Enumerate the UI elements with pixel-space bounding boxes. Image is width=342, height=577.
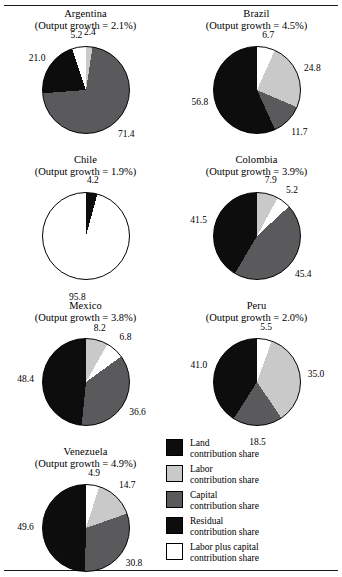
legend-swatch-labor [166, 465, 183, 482]
slice-value-label: 48.4 [17, 374, 34, 384]
slice-value-label: 4.9 [88, 468, 100, 478]
legend-label: Capitalcontribution share [190, 490, 259, 511]
pie-panel-colombia: Colombia(Output growth = 3.9%)7.95.245.4… [171, 154, 342, 300]
pie-area: 5.535.018.541.0 [171, 324, 342, 442]
legend-label: Residualcontribution share [190, 516, 259, 537]
panel-subtitle: (Output growth = 1.9%) [0, 166, 171, 178]
pie-panel-mexico: Mexico(Output growth = 3.8%)8.26.836.648… [0, 300, 171, 446]
slice-value-label: 5.5 [260, 322, 272, 332]
legend-item-residual: Residualcontribution share [166, 516, 336, 537]
legend-label-line1: Labor plus capital [190, 542, 259, 553]
slice-value-label: 24.8 [304, 63, 321, 73]
slice-value-label: 6.7 [262, 30, 274, 40]
legend-swatch-residual [166, 517, 183, 534]
panel-title: Brazil [171, 8, 342, 20]
slice-value-label: 30.8 [126, 558, 143, 568]
panel-title: Peru [171, 300, 342, 312]
legend-swatch-labor_plus_capital [166, 543, 183, 560]
slice-value-label: 2.4 [84, 27, 96, 37]
pie-area: 2.471.421.05.2 [0, 32, 171, 150]
legend-label-line1: Labor [190, 464, 259, 475]
pie-panel-argentina: Argentina(Output growth = 2.1%)2.471.421… [0, 8, 171, 154]
legend-item-labor_plus_capital: Labor plus capitalcontribution share [166, 542, 336, 563]
pie-panel-peru: Peru(Output growth = 2.0%)5.535.018.541.… [171, 300, 342, 446]
pie-chart [42, 338, 130, 426]
pie-chart [213, 192, 301, 280]
legend: Landcontribution shareLaborcontribution … [166, 438, 336, 566]
legend-label-line2: contribution share [190, 449, 259, 460]
slice-value-label: 8.2 [94, 323, 106, 333]
pie-area: 4.295.8 [0, 178, 171, 296]
pie-area: 4.914.730.849.6 [0, 470, 171, 577]
slice-value-label: 45.4 [295, 269, 312, 279]
pie-chart [42, 192, 130, 280]
panel-title: Colombia [171, 154, 342, 166]
legend-swatch-land [166, 439, 183, 456]
slice-value-label: 56.8 [192, 97, 209, 107]
top-rule [4, 5, 338, 6]
slice-value-label: 71.4 [118, 129, 135, 139]
legend-item-labor: Laborcontribution share [166, 464, 336, 485]
slice-value-label: 41.0 [191, 360, 208, 370]
slice-value-label: 21.0 [29, 53, 46, 63]
pie-area: 7.95.245.441.5 [171, 178, 342, 296]
legend-item-capital: Capitalcontribution share [166, 490, 336, 511]
legend-label-line2: contribution share [190, 475, 259, 486]
legend-label-line1: Capital [190, 490, 259, 501]
slice-value-label: 4.2 [87, 175, 99, 185]
legend-label-line2: contribution share [190, 527, 259, 538]
panel-subtitle: (Output growth = 3.9%) [171, 166, 342, 178]
panel-title: Chile [0, 154, 171, 166]
pie-area: 6.724.811.756.8 [171, 32, 342, 150]
pie-chart [213, 46, 301, 134]
panel-subtitle: (Output growth = 4.5%) [171, 20, 342, 32]
slice-value-label: 14.7 [119, 480, 136, 490]
slice-value-label: 5.2 [286, 185, 298, 195]
legend-label: Labor plus capitalcontribution share [190, 542, 259, 563]
slice-value-label: 7.9 [265, 175, 277, 185]
legend-label: Laborcontribution share [190, 464, 259, 485]
pie-panel-brazil: Brazil(Output growth = 4.5%)6.724.811.75… [171, 8, 342, 154]
panel-title: Argentina [0, 8, 171, 20]
legend-label-line1: Residual [190, 516, 259, 527]
slice-value-label: 36.6 [129, 407, 146, 417]
legend-item-land: Landcontribution share [166, 438, 336, 459]
slice-value-label: 11.7 [291, 127, 307, 137]
slice-value-label: 49.6 [17, 522, 34, 532]
slice-value-label: 6.8 [120, 332, 132, 342]
legend-label-line1: Land [190, 438, 259, 449]
slice-value-label: 35.0 [308, 369, 325, 379]
slice-value-label: 5.2 [70, 30, 82, 40]
pie-chart [42, 484, 130, 572]
pie-panel-venezuela: Venezuela(Output growth = 4.9%)4.914.730… [0, 446, 171, 577]
pie-chart [42, 46, 130, 134]
legend-label-line2: contribution share [190, 553, 259, 564]
legend-swatch-capital [166, 491, 183, 508]
panel-title: Venezuela [0, 446, 171, 458]
figure-contribution-shares: Argentina(Output growth = 2.1%)2.471.421… [0, 0, 342, 577]
panel-subtitle: (Output growth = 3.8%) [0, 312, 171, 324]
pie-panel-chile: Chile(Output growth = 1.9%)4.295.8 [0, 154, 171, 300]
panel-subtitle: (Output growth = 2.0%) [171, 312, 342, 324]
pie-area: 8.26.836.648.4 [0, 324, 171, 442]
panel-subtitle: (Output growth = 4.9%) [0, 458, 171, 470]
panel-title: Mexico [0, 300, 171, 312]
legend-label: Landcontribution share [190, 438, 259, 459]
pie-chart [213, 338, 301, 426]
slice-value-label: 41.5 [190, 215, 207, 225]
legend-label-line2: contribution share [190, 501, 259, 512]
